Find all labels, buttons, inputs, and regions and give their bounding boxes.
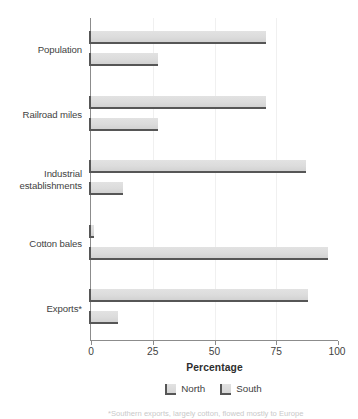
legend-item-north: North — [167, 383, 205, 394]
bar-fill — [91, 31, 266, 42]
category-label-line2: establishments — [19, 179, 82, 190]
category-label: Cotton bales — [29, 238, 82, 250]
bar-fill — [91, 53, 158, 64]
x-tick-75 — [276, 341, 277, 345]
category-row-industrial-establishments: Industrial establishments — [91, 147, 338, 212]
bar-fill — [91, 182, 123, 193]
footnote: *Southern exports, largely cotton, flowe… — [108, 409, 358, 418]
legend-label: South — [236, 383, 262, 394]
category-row-population: Population — [91, 18, 338, 83]
legend-swatch-icon — [167, 384, 176, 393]
bar-fill — [91, 160, 306, 171]
x-tick-label-75: 75 — [271, 346, 282, 357]
x-tick-100 — [338, 341, 339, 345]
legend-swatch-icon — [222, 384, 231, 393]
x-tick-25 — [153, 341, 154, 345]
x-tick-label-100: 100 — [329, 346, 346, 357]
x-tick-label-25: 25 — [147, 346, 158, 357]
category-label-line1: Industrial — [44, 168, 82, 179]
legend-label: North — [181, 383, 205, 394]
chart-legend: North South — [91, 383, 338, 394]
x-tick-50 — [215, 341, 216, 345]
x-tick-label-50: 50 — [209, 346, 220, 357]
category-row-cotton-bales: Cotton bales — [91, 212, 338, 277]
category-label: Population — [38, 45, 82, 57]
bar-fill — [91, 118, 158, 129]
legend-item-south: South — [222, 383, 262, 394]
bar-fill — [91, 247, 328, 258]
category-row-railroad-miles: Railroad miles — [91, 83, 338, 148]
category-label: Railroad miles — [23, 109, 82, 121]
bar-fill — [91, 96, 266, 107]
bar-fill — [91, 311, 118, 322]
bar-fill — [91, 225, 94, 236]
bar-fill — [91, 289, 308, 300]
category-label: Exports* — [47, 303, 82, 315]
x-tick-label-0: 0 — [88, 346, 94, 357]
category-row-exports: Exports* — [91, 276, 338, 341]
category-label: Industrial establishments — [19, 168, 82, 191]
x-axis-title: Percentage — [91, 362, 338, 373]
bar-chart-figure: Population Railroad miles Industrial est… — [0, 0, 358, 419]
plot-area: Population Railroad miles Industrial est… — [91, 18, 338, 341]
x-tick-0 — [91, 341, 92, 345]
